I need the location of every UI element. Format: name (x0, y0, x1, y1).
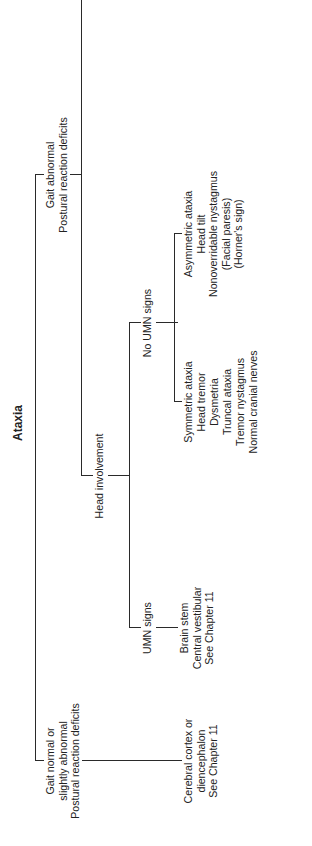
diagram-overlay (0, 0, 312, 846)
